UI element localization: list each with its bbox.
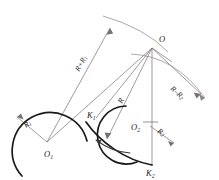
ray-O-short-right — [152, 48, 172, 62]
arrowhead-R — [105, 133, 112, 139]
ray-O-to-s-curve — [107, 48, 152, 139]
arrowhead-R-plus-R1 — [107, 28, 114, 35]
arrowhead-R2 — [168, 141, 174, 147]
geometry-figure: O O1 O2 K1 K2 R+R1 R R–R2 R1 R2 — [0, 0, 219, 180]
length-label-R-plus-R1: R+R1 — [72, 53, 89, 74]
ray-O-to-K1 — [96, 48, 152, 118]
radius-arrow-R1 — [17, 117, 47, 142]
geometry-canvas: O O1 O2 K1 K2 R+R1 R R–R2 R1 R2 — [0, 0, 219, 180]
length-label-R-minus-R2: R–R2 — [168, 83, 187, 102]
point-label-O1: O1 — [44, 149, 53, 160]
point-label-O: O — [159, 34, 165, 44]
transition-s-curve — [86, 122, 152, 165]
arc-circle-O2 — [97, 106, 137, 164]
point-label-O2: O2 — [131, 122, 140, 133]
point-label-K2: K2 — [145, 168, 155, 179]
point-label-K1: K1 — [86, 110, 96, 121]
arrowhead-R1 — [17, 114, 24, 120]
